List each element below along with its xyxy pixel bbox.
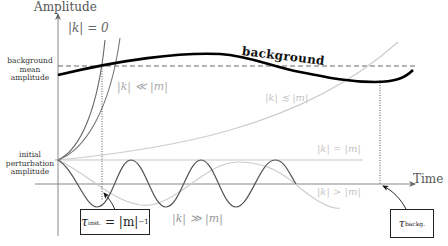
- tau-backg-box: τbackg.: [390, 209, 434, 238]
- tau-backg-subscript: backg.: [405, 220, 425, 227]
- tau-inst-rhs: = |m|: [105, 215, 138, 229]
- initial-perturbation-label: initial perturbation amplitude: [4, 151, 56, 177]
- background-mean-line-3: amplitude: [4, 74, 56, 83]
- tau-inst-box: τinst. = |m|−1: [80, 209, 150, 235]
- k-much-greater-label: |k| ≫ |m|: [172, 212, 223, 225]
- k-less-eq-label: |k| ≲ |m|: [265, 92, 308, 103]
- k-zero-label: |k| = 0: [68, 21, 109, 35]
- tau-inst-exponent: −1: [138, 218, 148, 226]
- k-zero-curve: [58, 40, 105, 160]
- diagram-canvas: [0, 0, 448, 246]
- k-greater-label: |k| > |m|: [317, 186, 361, 197]
- tau-backg-pointer: [383, 186, 406, 209]
- y-axis-title: Amplitude: [34, 0, 97, 14]
- tau-inst-subscript: inst.: [88, 219, 101, 226]
- k-much-less-curve: [58, 38, 120, 160]
- initial-perturbation-line-3: amplitude: [4, 168, 56, 177]
- k-equal-label: |k| = |m|: [317, 143, 361, 154]
- k-much-less-label: |k| ≪ |m|: [117, 80, 168, 93]
- background-curve: [58, 54, 413, 82]
- background-mean-label: background mean amplitude: [4, 57, 56, 83]
- x-axis-title: Time: [413, 172, 443, 186]
- tau-inst-symbol: τ: [81, 215, 88, 229]
